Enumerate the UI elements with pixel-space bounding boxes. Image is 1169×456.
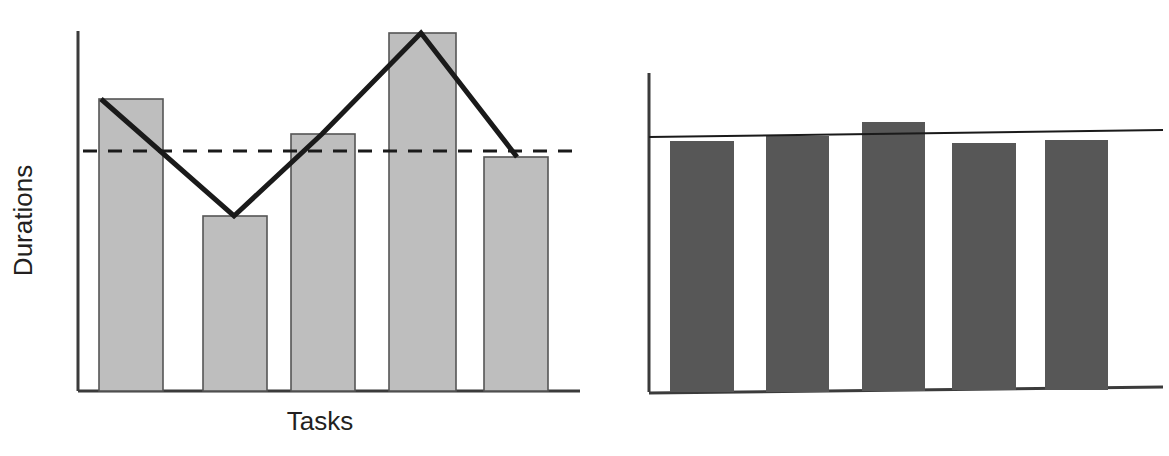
right-bars	[670, 122, 1108, 392]
left-x-axis-label: Tasks	[230, 406, 410, 437]
bar	[1045, 140, 1108, 390]
bar	[484, 157, 548, 391]
bar	[862, 122, 925, 391]
bar	[670, 141, 734, 392]
chart-panel-left: Durations Tasks	[0, 0, 585, 456]
bar	[952, 143, 1016, 390]
chart-panel-right: Durations Tasks	[585, 0, 1169, 456]
left-y-axis-label: Durations	[8, 156, 39, 286]
bar	[389, 33, 456, 391]
left-chart-canvas	[0, 0, 585, 456]
left-bars	[99, 33, 548, 391]
bar	[203, 216, 267, 391]
bar	[291, 134, 355, 391]
figure-two-bar-charts: Durations Tasks Durations Tasks	[0, 0, 1169, 456]
right-chart-canvas	[585, 0, 1169, 456]
bar	[766, 136, 829, 392]
